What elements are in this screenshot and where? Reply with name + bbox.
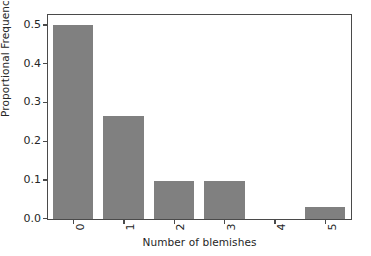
y-tick-label: 0.1: [24, 172, 42, 188]
x-tick-label: 4: [275, 219, 288, 235]
x-tick-label: 3: [225, 219, 238, 235]
y-axis-ticks: 0.00.10.20.30.40.5: [0, 14, 47, 220]
y-tick-label: 0.5: [24, 17, 42, 33]
x-tick-label: 2: [174, 219, 187, 235]
plot-area: [47, 14, 352, 220]
x-tick-label: 1: [124, 219, 137, 235]
bar-0: [53, 25, 93, 219]
bars-layer: [48, 15, 351, 219]
y-tick-label: 0.2: [24, 133, 42, 149]
x-axis-label: Number of blemishes: [47, 236, 352, 248]
y-tick-label: 0.4: [24, 56, 42, 72]
bar-2: [154, 181, 194, 219]
x-tick-label: 0: [74, 219, 87, 235]
x-tick-label: 5: [326, 219, 339, 235]
y-tick-label: 0.0: [24, 211, 42, 227]
y-tick-label: 0.3: [24, 94, 42, 110]
bar-3: [204, 181, 244, 219]
bar-1: [103, 116, 143, 219]
bar-5: [305, 207, 345, 219]
bar-chart-figure: Proportional Frequency 0.00.10.20.30.40.…: [0, 0, 371, 256]
